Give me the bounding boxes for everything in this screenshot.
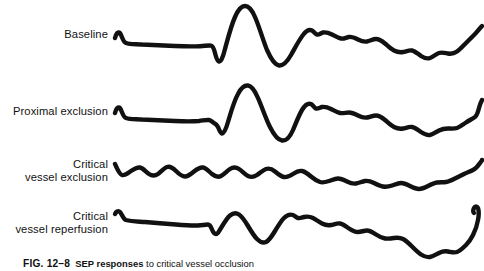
figure-number: FIG. 12–8 bbox=[23, 258, 70, 269]
sep-waveform-figure: Baseline Proximal exclusion Critical ves… bbox=[0, 0, 484, 271]
trace-plot-critical-vessel-exclusion bbox=[112, 152, 484, 202]
figure-caption-lead: SEP responses bbox=[75, 258, 143, 269]
trace-label-line: vessel reperfusion bbox=[0, 223, 108, 236]
trace-label-line: Critical bbox=[0, 210, 108, 223]
trace-row: Critical vessel reperfusion bbox=[0, 204, 484, 260]
trace-label-proximal-exclusion: Proximal exclusion bbox=[0, 105, 108, 118]
trace-label-line: Critical bbox=[0, 158, 108, 171]
trace-label-line: Baseline bbox=[0, 28, 108, 41]
trace-plot-critical-vessel-reperfusion bbox=[112, 204, 484, 262]
waveform-proximal-exclusion bbox=[112, 78, 484, 148]
trace-label-baseline: Baseline bbox=[0, 28, 108, 41]
trace-label-critical-vessel-exclusion: Critical vessel exclusion bbox=[0, 158, 108, 183]
trace-label-critical-vessel-reperfusion: Critical vessel reperfusion bbox=[0, 210, 108, 235]
waveform-critical-vessel-exclusion bbox=[112, 152, 484, 202]
figure-caption-text: to critical vessel occlusion bbox=[146, 258, 254, 269]
trace-plot-baseline bbox=[112, 0, 484, 72]
trace-label-line: Proximal exclusion bbox=[0, 105, 108, 118]
figure-caption: FIG. 12–8 SEP responses to critical vess… bbox=[23, 258, 484, 271]
waveform-critical-vessel-reperfusion bbox=[112, 204, 484, 262]
trace-row: Baseline bbox=[0, 0, 484, 72]
trace-row: Critical vessel exclusion bbox=[0, 152, 484, 202]
waveform-baseline bbox=[112, 0, 484, 72]
trace-label-line: vessel exclusion bbox=[0, 171, 108, 184]
trace-row: Proximal exclusion bbox=[0, 78, 484, 148]
trace-plot-proximal-exclusion bbox=[112, 78, 484, 148]
